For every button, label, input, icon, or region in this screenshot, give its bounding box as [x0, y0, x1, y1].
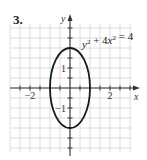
equation-annotation: y2 + 4x2 = 4 — [81, 30, 134, 50]
x-tick-label: 2 — [108, 90, 113, 101]
y-tick-label: −1 — [55, 103, 66, 114]
ellipse-chart: x y −221−1 y2 + 4x2 = 4 — [0, 0, 147, 160]
x-tick-label: −2 — [25, 90, 36, 101]
y-tick-label: 1 — [61, 63, 66, 74]
x-axis-label: x — [133, 91, 139, 102]
y-axis-label: y — [60, 13, 66, 24]
x-axis-arrow — [133, 86, 140, 91]
y-axis-arrow — [68, 14, 73, 21]
